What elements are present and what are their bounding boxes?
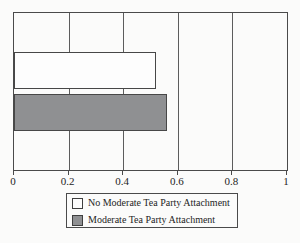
- legend-row-moderate-attachment: Moderate Tea Party Attachment: [67, 212, 237, 228]
- bar-moderate-attachment: [14, 94, 167, 131]
- x-axis-tick-label: 0.8: [225, 176, 239, 187]
- x-axis-tick-label: 0.2: [61, 176, 75, 187]
- gridline: [69, 13, 70, 170]
- legend-swatch-no-attachment: [72, 198, 83, 209]
- bar-no-attachment: [14, 52, 156, 89]
- x-axis: 00.20.40.60.81: [13, 170, 286, 192]
- bar-chart-figure: 00.20.40.60.81 No Moderate Tea Party Att…: [0, 0, 300, 243]
- gridline: [178, 13, 179, 170]
- plot-area: [13, 12, 288, 171]
- legend-label-moderate-attachment: Moderate Tea Party Attachment: [88, 215, 215, 225]
- gridline: [232, 13, 233, 170]
- x-axis-tick-label: 0.4: [115, 176, 129, 187]
- legend: No Moderate Tea Party Attachment Moderat…: [66, 193, 238, 228]
- legend-label-no-attachment: No Moderate Tea Party Attachment: [88, 198, 230, 208]
- gridline: [123, 13, 124, 170]
- legend-row-no-attachment: No Moderate Tea Party Attachment: [67, 195, 237, 211]
- x-axis-tick-label: 0.6: [170, 176, 184, 187]
- legend-swatch-moderate-attachment: [72, 215, 83, 226]
- x-axis-tick-label: 0: [10, 176, 16, 187]
- x-axis-tick-label: 1: [283, 176, 289, 187]
